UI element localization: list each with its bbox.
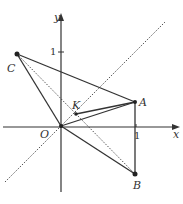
point-a — [133, 100, 137, 104]
label-x-tick-1: 1 — [134, 130, 140, 141]
label-y-axis: y — [53, 11, 61, 24]
label-y-tick-1: 1 — [50, 46, 56, 57]
point-o — [59, 124, 63, 128]
segment-ob — [61, 126, 135, 174]
label-x-axis: x — [173, 128, 180, 141]
point-b — [133, 172, 138, 177]
geometry-diagram: C A B K O x y 1 1 — [0, 0, 183, 204]
label-o: O — [40, 128, 49, 141]
point-k — [74, 112, 78, 116]
point-c — [15, 52, 20, 57]
label-b: B — [132, 179, 141, 192]
label-c: C — [7, 62, 16, 75]
segment-co — [17, 54, 61, 126]
segment-ca — [17, 54, 135, 102]
label-a: A — [138, 96, 147, 109]
label-k: K — [71, 99, 81, 112]
